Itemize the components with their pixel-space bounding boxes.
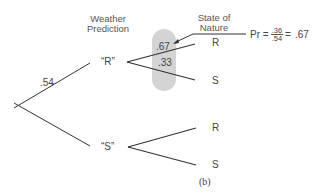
branch-root-to-S	[14, 103, 90, 146]
annotation-result: .67	[295, 30, 309, 40]
probability-annotation: Pr = .36 .54 = .67	[250, 27, 309, 42]
node-label-S: “S”	[101, 142, 114, 152]
fraction-denominator: .54	[272, 35, 282, 42]
outcome-S-under-R: S	[212, 76, 219, 86]
header-line: Prediction	[84, 24, 132, 34]
annotation-prefix: Pr =	[250, 30, 269, 40]
annotation-arrow	[176, 34, 246, 42]
outcome-R-under-S: R	[212, 123, 219, 133]
root-branch-probability: .54	[40, 78, 54, 88]
fraction: .36 .54	[271, 27, 283, 42]
header-state-of-nature: State of Nature	[190, 13, 238, 33]
header-weather-prediction: Weather Prediction	[84, 14, 132, 34]
header-line: Nature	[190, 23, 238, 33]
outcome-R-under-R: R	[212, 38, 219, 48]
prob-R-given-R: .67	[156, 42, 170, 52]
branch-S-to-S	[128, 147, 196, 165]
prob-S-given-R: .33	[158, 58, 172, 68]
annotation-equals: =	[285, 30, 291, 40]
outcome-S-under-S: S	[212, 160, 219, 170]
branch-S-to-R	[128, 128, 196, 147]
node-label-R: “R”	[101, 57, 115, 67]
figure-caption: (b)	[199, 176, 211, 187]
